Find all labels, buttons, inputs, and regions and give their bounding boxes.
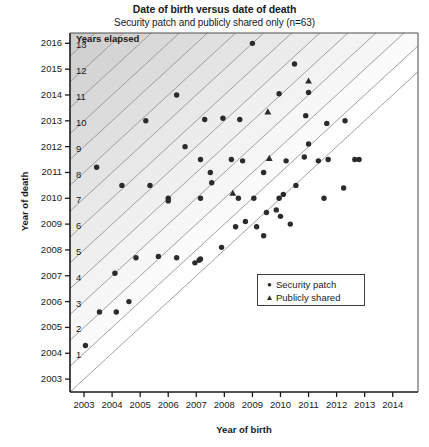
y-tick-label: 2006 <box>22 297 62 307</box>
y-tick-label: 2016 <box>22 38 62 48</box>
chart-legend: ● Security patch ▲ Publicly shared <box>257 274 365 306</box>
band-label: 12 <box>76 66 87 76</box>
y-tick-label: 2010 <box>22 193 62 203</box>
band-caption: Years elapsed <box>76 34 139 44</box>
band-label: 4 <box>76 273 81 283</box>
y-tick-label: 2008 <box>22 245 62 255</box>
y-tick-label: 2011 <box>22 167 62 177</box>
band-label: 3 <box>76 299 81 309</box>
legend-triangle-icon: ▲ <box>264 291 275 304</box>
legend-label-publicly-shared: Publicly shared <box>276 291 340 304</box>
chart-figure: Date of birth versus date of death Secur… <box>0 0 429 447</box>
y-tick-label: 2007 <box>22 271 62 281</box>
band-label: 7 <box>76 195 81 205</box>
band-label: 6 <box>76 221 81 231</box>
band-label: 2 <box>76 324 81 334</box>
band-label: 9 <box>76 144 81 154</box>
band-label: 5 <box>76 247 81 257</box>
legend-circle-icon: ● <box>264 278 275 291</box>
y-tick-label: 2015 <box>22 64 62 74</box>
y-tick-label: 2005 <box>22 322 62 332</box>
band-label: 8 <box>76 170 81 180</box>
legend-label-security-patch: Security patch <box>276 278 336 291</box>
x-tick-label: 2014 <box>376 400 410 410</box>
y-tick-label: 2003 <box>22 374 62 384</box>
y-tick-label: 2009 <box>22 219 62 229</box>
band-label: 10 <box>76 118 87 128</box>
y-tick-label: 2013 <box>22 116 62 126</box>
legend-item-security-patch: ● Security patch <box>264 278 336 291</box>
band-label: 11 <box>76 92 86 102</box>
legend-item-publicly-shared: ▲ Publicly shared <box>264 291 340 304</box>
y-tick-label: 2004 <box>22 348 62 358</box>
y-tick-label: 2012 <box>22 142 62 152</box>
plot-area <box>0 0 429 447</box>
diagonal-bands <box>70 33 418 392</box>
y-tick-label: 2014 <box>22 90 62 100</box>
band-label: 1 <box>76 350 81 360</box>
